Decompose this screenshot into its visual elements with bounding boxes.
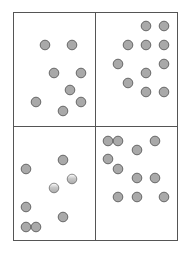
dot-circle [132,192,142,202]
dot-circle [132,173,142,183]
dot-circle [113,59,123,69]
dot-circle [103,136,113,146]
dot-circle [141,40,151,50]
panel-top-right [113,21,169,97]
dot-circle [40,40,50,50]
dot-circle [49,68,59,78]
dot-circle [76,68,86,78]
dot-circle [159,40,169,50]
dot-circle [141,87,151,97]
dot-quadrant-figure [0,0,185,254]
dot-circle [113,136,123,146]
dot-circle [76,97,86,107]
dot-circle [159,192,169,202]
panel-bottom-right [103,136,169,202]
dot-circle [132,145,142,155]
dot-circle [31,222,41,232]
dot-circle [159,21,169,31]
dot-circle [113,192,123,202]
panel-bottom-left [21,155,77,232]
dot-circle [21,222,31,232]
grid-frame [14,13,178,241]
dot-circle [67,174,77,184]
dot-circle [123,78,133,88]
dot-circle [58,212,68,222]
dot-circle [49,183,59,193]
panel-top-left [31,40,86,116]
dot-circle [141,68,151,78]
dot-circle [31,97,41,107]
dot-circle [58,106,68,116]
dot-circle [141,21,151,31]
dot-circle [67,40,77,50]
dot-circle [103,154,113,164]
dot-circle [113,164,123,174]
dot-circle [21,202,31,212]
dot-circle [21,164,31,174]
dot-circle [58,155,68,165]
dot-circle [150,173,160,183]
dot-circle [123,40,133,50]
dot-circle [159,59,169,69]
dot-circle [159,87,169,97]
dot-circle [65,85,75,95]
dot-circle [150,136,160,146]
